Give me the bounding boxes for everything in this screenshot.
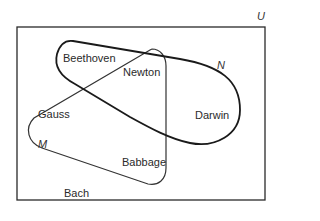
element-babbage: Babbage xyxy=(122,157,166,168)
universe-label: U xyxy=(257,11,265,22)
element-newton: Newton xyxy=(123,67,160,78)
set-m-label: M xyxy=(38,139,47,150)
set-n-label: N xyxy=(217,60,225,71)
element-beethoven: Beethoven xyxy=(63,53,116,64)
element-darwin: Darwin xyxy=(195,110,229,121)
element-gauss: Gauss xyxy=(38,109,70,120)
element-bach: Bach xyxy=(64,188,89,199)
